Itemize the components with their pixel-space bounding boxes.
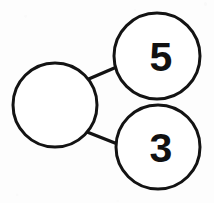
part-top-value: 5 [150,34,173,80]
number-bond-diagram: 5 3 [0,0,214,203]
part-bottom-value: 3 [150,125,173,171]
whole-circle-empty[interactable] [13,63,97,147]
number-bond-canvas: 5 3 [0,0,214,203]
